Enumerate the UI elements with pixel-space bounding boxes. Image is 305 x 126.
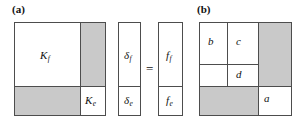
label-f-e: fe	[166, 95, 173, 109]
matrix-cell-empty	[200, 64, 227, 86]
label-delta-e-subscript: e	[129, 99, 133, 108]
matrix-cell-bottom-left-shaded	[200, 86, 258, 115]
matrix-cell-d	[227, 64, 258, 86]
matrix-row-divider	[15, 86, 105, 87]
label-delta-e: δe	[124, 95, 133, 109]
label-kf-subscript: f	[47, 54, 49, 63]
matrix-b-row-divider-2	[200, 86, 291, 87]
panel-b-label: (b)	[197, 4, 210, 15]
force-vector-divider	[159, 86, 182, 87]
matrix-block-bottom-left-shaded	[15, 86, 80, 115]
label-f-f: ff	[166, 50, 172, 64]
partitioned-matrix: b c d a	[199, 22, 292, 116]
matrix-b-row-divider-1	[200, 64, 258, 65]
figure-root: (a) Kf Ke δf δe = ff fe (b)	[0, 0, 305, 126]
label-f-e-subscript: e	[169, 99, 173, 108]
label-ke: Ke	[85, 95, 96, 109]
label-delta-f: δf	[124, 50, 132, 64]
matrix-column-divider	[80, 23, 81, 115]
label-delta-f-subscript: f	[129, 54, 131, 63]
matrix-b-column-divider-2	[258, 23, 259, 115]
label-c: c	[236, 36, 241, 47]
displacement-vector-divider	[119, 86, 140, 87]
label-a: a	[264, 93, 270, 104]
matrix-block-top-right-shaded	[80, 23, 105, 86]
stiffness-matrix: Kf Ke	[14, 22, 106, 116]
label-b: b	[208, 36, 214, 47]
label-d: d	[236, 69, 242, 80]
matrix-cell-a	[258, 86, 291, 115]
label-f-f-subscript: f	[169, 54, 171, 63]
matrix-cell-c	[227, 23, 258, 64]
panel-a-label: (a)	[12, 4, 25, 15]
matrix-cell-middle-right-shaded	[258, 64, 291, 86]
matrix-cell-top-right-shaded	[258, 23, 291, 64]
label-kf: Kf	[40, 50, 50, 64]
label-ke-subscript: e	[92, 99, 96, 108]
displacement-vector: δf δe	[118, 22, 141, 116]
force-vector: ff fe	[158, 22, 183, 116]
equals-sign: =	[146, 62, 153, 75]
matrix-b-column-divider-1	[227, 23, 228, 86]
